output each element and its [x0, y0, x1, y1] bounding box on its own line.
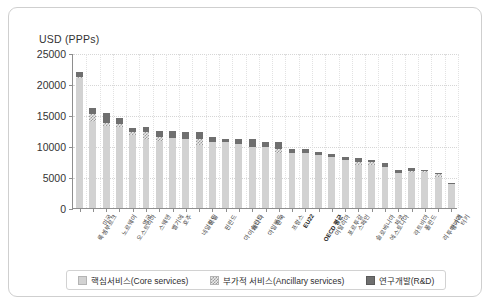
x-axis-tick-mark — [106, 208, 107, 212]
x-axis-tick-mark — [358, 208, 359, 212]
bar — [182, 132, 189, 208]
x-axis-tick-mark — [239, 208, 240, 212]
bar-segment — [143, 132, 150, 141]
legend-swatch-ancillary-icon — [210, 276, 219, 285]
bar-segment — [89, 114, 96, 122]
x-axis-tick-mark — [279, 208, 280, 212]
x-axis-tick-mark — [133, 208, 134, 212]
bar-series-group — [73, 54, 457, 208]
legend-label-rd: 연구개발(R&D) — [379, 274, 435, 286]
x-axis-tick-mark — [159, 208, 160, 212]
bar-segment — [355, 165, 362, 208]
bar — [262, 142, 269, 208]
bar — [169, 131, 176, 208]
legend-swatch-rd-icon — [366, 276, 375, 285]
bar-segment — [275, 142, 282, 149]
bar-segment — [182, 139, 189, 208]
x-axis-tick-mark — [119, 208, 120, 212]
bar — [235, 139, 242, 208]
chart-frame: USD (PPPs) 0500010000150002000025000 룩셈부… — [8, 7, 482, 297]
x-axis-tick-label: 핀란드 — [224, 213, 239, 232]
legend-item-rd: 연구개발(R&D) — [366, 274, 435, 286]
bar-segment — [315, 155, 322, 208]
x-axis-tick-mark — [345, 208, 346, 212]
bar — [302, 149, 309, 208]
x-axis-tick-mark — [305, 208, 306, 212]
bar — [421, 170, 428, 208]
x-axis-tick-mark — [398, 208, 399, 212]
bar-segment — [222, 142, 229, 208]
x-axis-tick-mark — [252, 208, 253, 212]
bar-segment — [408, 173, 415, 208]
bar — [448, 183, 455, 208]
y-axis-tick-mark — [69, 209, 73, 210]
x-axis-tick-mark — [412, 208, 413, 212]
bar — [315, 152, 322, 208]
x-axis-tick-mark — [80, 208, 81, 212]
x-axis-tick-label: 독일 — [208, 213, 220, 227]
x-axis-tick-mark — [332, 208, 333, 212]
bar-segment — [302, 153, 309, 208]
bar-segment — [196, 145, 203, 208]
bar — [382, 163, 389, 208]
x-axis-tick-mark — [93, 208, 94, 212]
bar-segment — [262, 147, 269, 208]
bar-segment — [249, 147, 256, 208]
bar-segment — [196, 132, 203, 139]
x-axis-tick-mark — [451, 208, 452, 212]
x-axis-tick-mark — [292, 208, 293, 212]
bar-segment — [235, 144, 242, 208]
bar-segment — [103, 113, 110, 124]
x-axis-tick-mark — [266, 208, 267, 212]
bar — [76, 72, 83, 208]
legend-swatch-core-icon — [78, 276, 87, 285]
bar — [342, 157, 349, 208]
bar — [209, 137, 216, 208]
x-axis-labels: 룩셈부르크미국노르웨이오스트리아영국스웨덴벨기에호주네덜란드독일핀란드아이슬란드… — [72, 213, 457, 265]
bar — [89, 108, 96, 208]
bar — [355, 158, 362, 208]
x-axis-tick-mark — [319, 208, 320, 212]
legend-item-ancillary: 부가적 서비스(Ancillary services) — [210, 274, 345, 286]
bar-segment — [249, 139, 256, 146]
x-axis-tick-mark — [212, 208, 213, 212]
bar-segment — [435, 177, 442, 208]
x-axis-tick-mark — [425, 208, 426, 212]
y-axis-tick-label: 10000 — [37, 141, 73, 153]
bar-segment — [289, 153, 296, 208]
legend-label-ancillary: 부가적 서비스(Ancillary services) — [223, 274, 345, 286]
y-axis-tick-label: 25000 — [37, 48, 73, 60]
bar — [196, 132, 203, 208]
bar — [395, 170, 402, 208]
bar-segment — [209, 142, 216, 208]
bar-segment — [342, 160, 349, 208]
bar — [289, 149, 296, 209]
y-axis-title: USD (PPPs) — [39, 33, 99, 45]
bar-segment — [103, 126, 110, 208]
x-axis-tick-label: 캐나다 — [250, 213, 265, 232]
x-axis-tick-mark — [372, 208, 373, 212]
x-axis-tick-mark — [385, 208, 386, 212]
x-axis-tick-mark — [199, 208, 200, 212]
legend-label-core: 핵심서비스(Core services) — [91, 274, 189, 286]
bar — [129, 128, 136, 208]
bar-segment — [421, 173, 428, 208]
chart-legend: 핵심서비스(Core services) 부가적 서비스(Ancillary s… — [66, 270, 446, 290]
bar — [222, 139, 229, 208]
bar-segment — [76, 78, 83, 208]
x-axis-tick-mark — [186, 208, 187, 212]
bar-segment — [395, 173, 402, 208]
bar — [275, 142, 282, 208]
x-axis-tick-mark — [173, 208, 174, 212]
bar-segment — [156, 141, 163, 208]
bar-segment — [116, 127, 123, 208]
vertical-gridline — [458, 54, 459, 208]
bar — [249, 139, 256, 208]
bar-segment — [129, 135, 136, 208]
bar-segment — [275, 153, 282, 208]
plot-area: 0500010000150002000025000 — [72, 54, 457, 209]
bar — [328, 154, 335, 208]
bar — [116, 118, 123, 209]
bar-segment — [143, 140, 150, 208]
x-axis-tick-label: 노르웨이 — [120, 213, 139, 237]
